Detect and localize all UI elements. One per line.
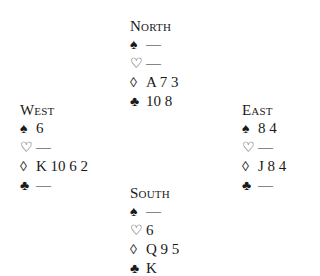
spade-icon: ♠: [130, 203, 146, 221]
diamond-icon: ◊: [242, 158, 258, 176]
west-hearts: ♡—: [20, 138, 88, 157]
west-clubs: ♣—: [20, 176, 88, 195]
north-hearts: ♡—: [130, 54, 179, 73]
club-icon: ♣: [242, 177, 258, 195]
north-clubs: ♣10 8: [130, 92, 179, 111]
diamond-icon: ◊: [130, 74, 146, 92]
east-clubs: ♣—: [242, 176, 286, 195]
east-hearts: ♡—: [242, 138, 286, 157]
north-spades: ♠—: [130, 35, 179, 54]
south-hearts: ♡6: [130, 221, 179, 240]
club-icon: ♣: [130, 93, 146, 111]
club-icon: ♣: [20, 177, 36, 195]
west-spades: ♠6: [20, 119, 88, 138]
east-diamonds: ◊J 8 4: [242, 157, 286, 176]
south-spades: ♠—: [130, 202, 179, 221]
south-diamonds: ◊Q 9 5: [130, 240, 179, 259]
south-clubs: ♣K: [130, 259, 179, 276]
west-hand: West ♠6 ♡— ◊K 10 6 2 ♣—: [20, 101, 88, 195]
east-spades: ♠8 4: [242, 119, 286, 138]
heart-icon: ♡: [242, 139, 258, 157]
diamond-icon: ◊: [20, 158, 36, 176]
heart-icon: ♡: [20, 139, 36, 157]
heart-icon: ♡: [130, 222, 146, 240]
south-hand: South ♠— ♡6 ◊Q 9 5 ♣K: [130, 184, 179, 276]
north-diamonds: ◊A 7 3: [130, 73, 179, 92]
diamond-icon: ◊: [130, 241, 146, 259]
spade-icon: ♠: [130, 36, 146, 54]
heart-icon: ♡: [130, 55, 146, 73]
club-icon: ♣: [130, 260, 146, 276]
spade-icon: ♠: [242, 120, 258, 138]
north-label: North: [130, 17, 179, 35]
east-hand: East ♠8 4 ♡— ◊J 8 4 ♣—: [242, 101, 286, 195]
east-label: East: [242, 101, 286, 119]
north-hand: North ♠— ♡— ◊A 7 3 ♣10 8: [130, 17, 179, 111]
west-label: West: [20, 101, 88, 119]
west-diamonds: ◊K 10 6 2: [20, 157, 88, 176]
south-label: South: [130, 184, 179, 202]
spade-icon: ♠: [20, 120, 36, 138]
